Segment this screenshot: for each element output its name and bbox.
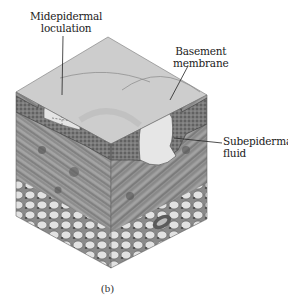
label-midepidermal-loculation: Midepidermal loculation — [30, 11, 102, 34]
skin-block-figure: Midepidermal loculation Basement membran… — [0, 0, 288, 301]
label-subepidermal-fluid: Subepidermal fluid — [223, 136, 288, 159]
figure-caption: (b) — [101, 282, 114, 294]
label-basement-membrane: Basement membrane — [173, 46, 229, 69]
